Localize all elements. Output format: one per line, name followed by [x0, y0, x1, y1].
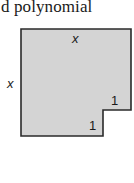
area-model-shape: [0, 0, 134, 183]
label-notch-bottom-1: 1: [89, 119, 96, 132]
label-notch-right-1: 1: [111, 94, 118, 107]
label-top-x: x: [72, 32, 79, 45]
label-left-x: x: [7, 77, 14, 90]
